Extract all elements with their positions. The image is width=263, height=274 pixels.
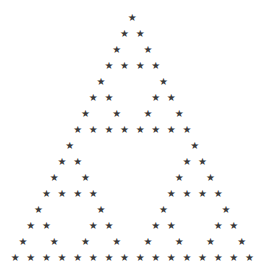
- star-icon: ★: [142, 108, 154, 120]
- star-icon: ★: [111, 236, 123, 248]
- star-icon: ★: [87, 188, 99, 200]
- star-icon: ★: [150, 92, 162, 104]
- sierpinski-triangle: ★★★★★★★★★★★★★★★★★★★★★★★★★★★★★★★★★★★★★★★★…: [0, 0, 263, 274]
- star-icon: ★: [150, 60, 162, 72]
- star-icon: ★: [189, 140, 201, 152]
- star-icon: ★: [212, 188, 224, 200]
- star-icon: ★: [103, 124, 115, 136]
- star-icon: ★: [173, 172, 185, 184]
- star-icon: ★: [79, 236, 91, 248]
- star-icon: ★: [56, 156, 68, 168]
- star-icon: ★: [197, 188, 209, 200]
- star-icon: ★: [181, 252, 193, 264]
- star-icon: ★: [165, 188, 177, 200]
- star-icon: ★: [243, 252, 255, 264]
- star-icon: ★: [204, 236, 216, 248]
- star-icon: ★: [126, 12, 138, 24]
- star-icon: ★: [56, 188, 68, 200]
- star-icon: ★: [79, 172, 91, 184]
- star-icon: ★: [165, 252, 177, 264]
- star-icon: ★: [25, 220, 37, 232]
- star-icon: ★: [236, 236, 248, 248]
- star-icon: ★: [17, 236, 29, 248]
- star-icon: ★: [212, 252, 224, 264]
- star-icon: ★: [118, 28, 130, 40]
- star-icon: ★: [173, 236, 185, 248]
- star-icon: ★: [118, 252, 130, 264]
- star-icon: ★: [40, 220, 52, 232]
- star-icon: ★: [134, 60, 146, 72]
- star-icon: ★: [212, 220, 224, 232]
- star-icon: ★: [87, 252, 99, 264]
- star-icon: ★: [95, 76, 107, 88]
- star-icon: ★: [72, 124, 84, 136]
- star-icon: ★: [158, 204, 170, 216]
- star-icon: ★: [197, 156, 209, 168]
- star-icon: ★: [64, 140, 76, 152]
- star-icon: ★: [33, 204, 45, 216]
- star-icon: ★: [165, 220, 177, 232]
- star-icon: ★: [204, 172, 216, 184]
- star-icon: ★: [118, 124, 130, 136]
- star-icon: ★: [25, 252, 37, 264]
- star-icon: ★: [181, 124, 193, 136]
- star-icon: ★: [72, 252, 84, 264]
- star-icon: ★: [118, 60, 130, 72]
- star-icon: ★: [111, 44, 123, 56]
- star-icon: ★: [150, 124, 162, 136]
- star-icon: ★: [9, 252, 21, 264]
- star-icon: ★: [228, 220, 240, 232]
- star-icon: ★: [40, 188, 52, 200]
- star-icon: ★: [165, 124, 177, 136]
- star-icon: ★: [158, 76, 170, 88]
- star-icon: ★: [220, 204, 232, 216]
- star-icon: ★: [111, 108, 123, 120]
- star-icon: ★: [134, 28, 146, 40]
- star-icon: ★: [142, 236, 154, 248]
- star-icon: ★: [48, 236, 60, 248]
- star-icon: ★: [48, 172, 60, 184]
- star-icon: ★: [197, 252, 209, 264]
- star-icon: ★: [103, 252, 115, 264]
- star-icon: ★: [134, 252, 146, 264]
- star-icon: ★: [103, 92, 115, 104]
- star-icon: ★: [87, 220, 99, 232]
- star-icon: ★: [150, 220, 162, 232]
- star-icon: ★: [181, 156, 193, 168]
- star-icon: ★: [181, 188, 193, 200]
- star-icon: ★: [103, 60, 115, 72]
- star-icon: ★: [95, 204, 107, 216]
- star-icon: ★: [103, 220, 115, 232]
- star-icon: ★: [142, 44, 154, 56]
- star-icon: ★: [228, 252, 240, 264]
- star-icon: ★: [56, 252, 68, 264]
- star-icon: ★: [165, 92, 177, 104]
- star-icon: ★: [72, 156, 84, 168]
- star-icon: ★: [150, 252, 162, 264]
- star-icon: ★: [134, 124, 146, 136]
- star-icon: ★: [87, 124, 99, 136]
- star-icon: ★: [87, 92, 99, 104]
- star-icon: ★: [173, 108, 185, 120]
- star-icon: ★: [72, 188, 84, 200]
- star-icon: ★: [40, 252, 52, 264]
- star-icon: ★: [79, 108, 91, 120]
